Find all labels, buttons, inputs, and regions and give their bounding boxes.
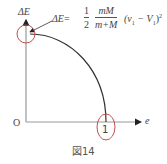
square-exponent: 2 [159, 13, 162, 19]
figure-caption: 図14 [72, 143, 95, 158]
frac2-denominator: m+M [95, 19, 117, 30]
formula-lhs: ΔE= [52, 13, 70, 24]
formula-delta-e: ΔE [52, 13, 64, 24]
frac2-numerator: mM [98, 5, 114, 16]
energy-curve [30, 34, 106, 122]
x-tick-1: 1 [102, 124, 108, 135]
formula-velocity-term: (v1 − V1)2 [124, 13, 162, 26]
frac1-denominator: 2 [84, 19, 89, 30]
pointer-arrow [30, 21, 52, 32]
x-axis-label: e [145, 115, 149, 126]
formula-fraction-mass: mM m+M [95, 5, 117, 30]
v1-open: (v [124, 13, 132, 24]
y-axis-label: ΔE [18, 6, 30, 17]
frac1-bar [84, 17, 89, 18]
formula-fraction-half: 1 2 [84, 5, 89, 30]
formula-equals: = [64, 13, 70, 24]
origin-label: O [13, 117, 20, 128]
frac2-bar [95, 17, 117, 18]
minus-V1: − V [135, 13, 153, 24]
frac1-numerator: 1 [84, 5, 89, 16]
